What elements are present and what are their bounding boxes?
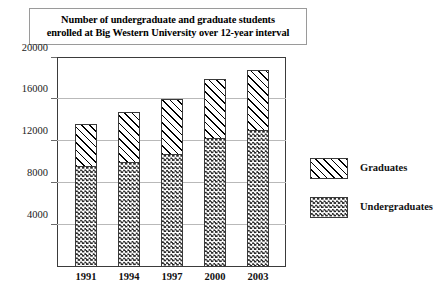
legend-item-graduates: Graduates (310, 158, 436, 180)
bar-group-1994 (118, 112, 140, 267)
ytick-mark-12000 (51, 140, 57, 141)
bar-segment-graduates-1991 (75, 124, 97, 167)
chart-legend: Graduates Undergraduates (310, 158, 436, 236)
bar-segment-undergraduates-1997 (161, 154, 183, 267)
xtick-label-2003: 2003 (248, 271, 269, 282)
xtick-label-1994: 1994 (119, 271, 140, 282)
chart-title-line-2: enrolled at Big Western University over … (36, 26, 300, 39)
bar-segment-undergraduates-2000 (204, 138, 226, 267)
chart-title-line-1: Number of undergraduate and graduate stu… (36, 13, 300, 26)
bar-group-2000 (204, 79, 226, 267)
bar-group-1997 (161, 99, 183, 267)
checkerboard-swatch-icon (310, 197, 348, 218)
legend-label-undergraduates: Undergraduates (360, 201, 433, 212)
ytick-label-16000: 16000 (22, 83, 48, 94)
bar-segment-graduates-1994 (118, 112, 140, 163)
bar-group-1991 (75, 124, 97, 267)
bar-segment-graduates-2000 (204, 79, 226, 139)
bar-segment-undergraduates-1991 (75, 166, 97, 267)
ytick-label-4000: 4000 (27, 209, 48, 220)
plot-area: 20000 16000 12000 8000 4000 (57, 57, 286, 267)
ytick-mark-20000 (51, 57, 57, 58)
xtick-label-1991: 1991 (76, 271, 97, 282)
diagonal-hatch-swatch-icon (310, 158, 348, 179)
ytick-label-12000: 12000 (22, 125, 48, 136)
bar-segment-graduates-1997 (161, 99, 183, 155)
xtick-label-2000: 2000 (205, 271, 226, 282)
bar-segment-undergraduates-2003 (247, 130, 269, 267)
chart-figure: Number of undergraduate and graduate stu… (0, 0, 441, 300)
chart-title: Number of undergraduate and graduate stu… (29, 8, 307, 45)
ytick-label-20000: 20000 (22, 42, 48, 53)
ytick-mark-16000 (51, 98, 57, 99)
ytick-mark-4000 (51, 224, 57, 225)
ytick-label-8000: 8000 (27, 167, 48, 178)
xtick-label-1997: 1997 (162, 271, 183, 282)
bar-segment-graduates-2003 (247, 70, 269, 131)
ytick-mark-8000 (51, 182, 57, 183)
legend-label-graduates: Graduates (360, 162, 407, 173)
bar-segment-undergraduates-1994 (118, 162, 140, 267)
bar-group-2003 (247, 70, 269, 267)
legend-item-undergraduates: Undergraduates (310, 197, 436, 219)
